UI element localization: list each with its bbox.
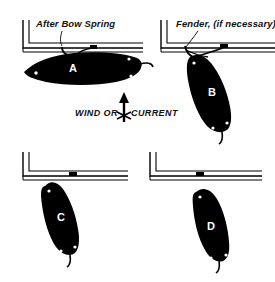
label-fender: Fender, (if necessary) [176,18,275,29]
label-wind-or: WIND OR [75,108,118,118]
callout-leader-after-bow-spring [61,31,63,46]
boat-c-letter: C [57,211,65,223]
boat-d-letter: D [207,220,215,232]
boat-a-letter: A [69,62,77,74]
boat-a: A [24,52,153,85]
boat-c: C [41,182,79,267]
boat-b: B [187,55,231,144]
panel-c-dock [23,152,128,180]
boat-d: D [193,189,230,273]
panel-b-dock-lines [185,44,228,58]
docking-diagram: A B [0,0,275,282]
diagram-canvas: A B [0,0,275,282]
callout-leader-fender [186,31,198,47]
label-after-bow-spring: After Bow Spring [36,18,115,29]
up-arrow-icon [117,92,131,122]
boat-b-letter: B [208,86,216,98]
label-current: CURRENT [131,108,178,118]
panel-d-dock [150,152,262,180]
